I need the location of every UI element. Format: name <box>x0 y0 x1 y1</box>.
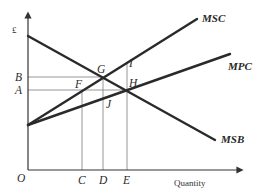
mpc-label: MPC <box>227 60 253 72</box>
origin-label: O <box>17 172 26 184</box>
price-label-b: B <box>15 71 22 83</box>
point-label-j: J <box>106 98 112 110</box>
msc-curve <box>28 19 197 125</box>
point-label-f: F <box>74 78 83 90</box>
price-label-a: A <box>14 84 23 96</box>
externality-diagram: £ Quantity O B A C D E G H F I J MSC MPC… <box>0 0 259 192</box>
point-label-g: G <box>97 63 106 75</box>
y-axis-label: £ <box>12 25 17 35</box>
point-label-h: H <box>128 77 138 89</box>
quantity-label-d: D <box>98 174 108 186</box>
msb-curve <box>28 36 215 140</box>
msb-label: MSB <box>220 133 244 145</box>
quantity-label-c: C <box>78 174 86 186</box>
msc-label: MSC <box>201 12 226 24</box>
quantity-label-e: E <box>122 174 130 186</box>
x-axis-label: Quantity <box>174 178 206 188</box>
